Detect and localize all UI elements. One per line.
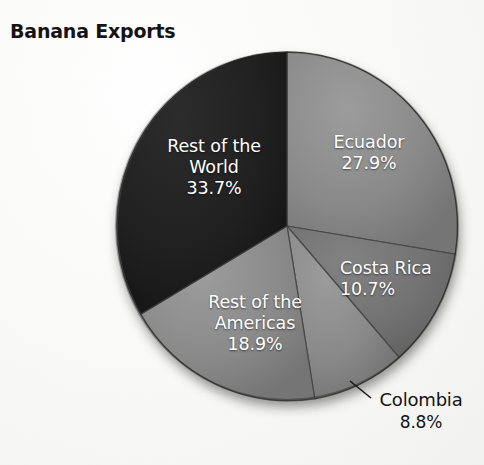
slice-label-colombia: Colombia 8.8%: [362, 388, 480, 434]
slice-label-colombia-pct: 8.8%: [362, 411, 480, 434]
pie-chart: Ecuador 27.9% Rest of the World 33.7% Co…: [0, 0, 484, 465]
chart-page: Banana Exports: [0, 0, 484, 465]
pie-slice-ecuador[interactable]: [287, 52, 457, 254]
slice-label-colombia-name: Colombia: [380, 389, 463, 410]
